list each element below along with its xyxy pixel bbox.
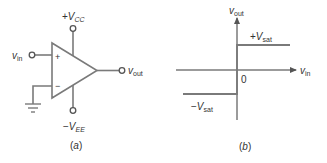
ground-icon [25, 104, 41, 112]
y-axis-label: vout [229, 5, 244, 17]
vee-terminal [70, 108, 76, 114]
origin-label: 0 [241, 74, 247, 85]
plus-input-symbol: + [55, 52, 60, 62]
vout-terminal [119, 68, 125, 74]
panel-b-caption: (b) [239, 141, 251, 152]
ground-wire [33, 86, 52, 104]
panel-a-caption: (a) [70, 140, 82, 151]
diagram-canvas: +VCC −VEE vin + − vout (a) [0, 0, 327, 163]
vcc-label: +VCC [62, 11, 86, 23]
vcc-terminal [70, 26, 76, 32]
vin-terminal [29, 52, 35, 58]
vee-label: −VEE [63, 121, 85, 133]
minus-input-symbol: − [55, 81, 60, 91]
panel-a-op-amp-circuit: +VCC −VEE vin + − vout (a) [12, 11, 143, 151]
x-axis-label: vin [300, 65, 311, 77]
panel-b-transfer-characteristic: vout vin 0 +Vsat −Vsat (b) [176, 5, 311, 152]
vout-label: vout [128, 65, 143, 77]
pos-sat-label: +Vsat [250, 31, 272, 43]
neg-sat-label: −Vsat [191, 101, 213, 113]
vin-label: vin [12, 50, 23, 62]
